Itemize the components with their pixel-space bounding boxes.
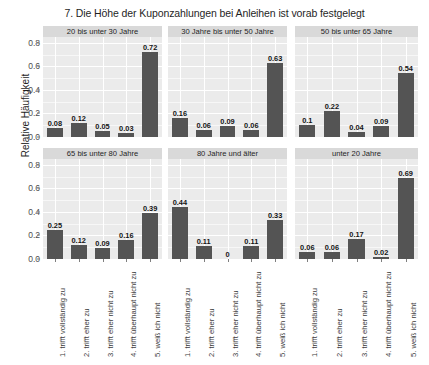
facet-strip-label: 20 bis unter 30 Jahre (43, 26, 162, 37)
x-tick-mark (180, 259, 181, 262)
x-tick-mark (307, 259, 308, 262)
x-tick-label: 2. trifft eher zu (335, 309, 344, 357)
bar (348, 132, 364, 137)
gridline-vertical (228, 159, 229, 259)
bar (324, 111, 340, 137)
bar (243, 246, 259, 259)
x-tick-label: 2. trifft eher zu (82, 309, 91, 357)
bar-value-label: 0.63 (268, 54, 282, 63)
bar (373, 126, 389, 137)
bar (267, 220, 283, 259)
bar-value-label: 0.17 (349, 230, 363, 239)
y-tick-mark (37, 89, 40, 90)
y-tick-mark (37, 42, 40, 43)
bar-value-label: 0.06 (196, 121, 210, 130)
bar (398, 178, 414, 259)
bar (47, 230, 63, 259)
facet-strip-label: 30 Jahre bis unter 50 Jahre (168, 26, 287, 37)
bar (348, 239, 364, 259)
x-tick-label: 3. trifft eher nicht zu (360, 290, 369, 357)
bar-value-label: 0.12 (71, 114, 85, 123)
facet-strip-label: 65 bis unter 80 Jahre (43, 148, 162, 159)
x-tick-mark (251, 259, 252, 262)
y-tick-mark (37, 211, 40, 212)
gridline-vertical (357, 37, 358, 137)
x-tick-mark (55, 259, 56, 262)
bar (243, 130, 259, 137)
bar-value-label: 0.54 (398, 64, 412, 73)
bar (47, 128, 63, 137)
bar-value-label: 0.04 (349, 123, 363, 132)
facet-panel: unter 20 Jahre0.060.060.170.020.69 (295, 148, 418, 259)
x-tick-mark (228, 259, 229, 262)
x-tick-label: 4. trifft überhaupt nicht zu (129, 271, 138, 357)
bar (398, 73, 414, 137)
bar-value-label: 0.12 (71, 236, 85, 245)
x-tick-label: 2. trifft eher zu (207, 309, 216, 357)
facet-panel: 80 Jahre und älter0.440.1100.110.33 (168, 148, 287, 259)
plot-area: 0.10.220.040.090.54 (295, 37, 418, 137)
x-tick-mark (332, 259, 333, 262)
bar-value-label: 0.06 (300, 243, 314, 252)
x-tick-mark (357, 259, 358, 262)
gridline-vertical (381, 159, 382, 259)
gridline-vertical (126, 37, 127, 137)
x-tick-label: 3. trifft eher nicht zu (231, 290, 240, 357)
y-axis: 0.00.20.40.60.80.00.20.40.60.8 (0, 0, 40, 365)
facet-panel: 50 bis unter 65 Jahre0.10.220.040.090.54 (295, 26, 418, 137)
y-tick-mark (37, 188, 40, 189)
plot-area: 0.250.120.090.160.39 (43, 159, 162, 259)
x-tick-mark (126, 259, 127, 262)
bar (142, 52, 158, 137)
bar (267, 63, 283, 137)
x-tick-mark (150, 259, 151, 262)
facet-strip-label: 50 bis unter 65 Jahre (295, 26, 418, 37)
bar-value-label: 0.22 (325, 102, 339, 111)
x-tick-label: 5. weiß ich nicht (409, 303, 418, 357)
bar-value-label: 0.44 (173, 198, 187, 207)
bar-value-label: 0.09 (95, 239, 109, 248)
x-tick-label: 1. trifft vollständig zu (58, 288, 67, 357)
bar (71, 123, 87, 137)
x-tick-label: 5. weiß ich nicht (278, 303, 287, 357)
bar-value-label: 0.05 (95, 122, 109, 131)
x-tick-label: 1. trifft vollständig zu (310, 288, 319, 357)
bar-value-label: 0.39 (143, 204, 157, 213)
bar (142, 213, 158, 259)
facet-strip-label: unter 20 Jahre (295, 148, 418, 159)
bar-value-label: 0.33 (268, 211, 282, 220)
facet-panel: 65 bis unter 80 Jahre0.250.120.090.160.3… (43, 148, 162, 259)
x-tick-mark (79, 259, 80, 262)
bar (71, 245, 87, 259)
x-tick-mark (381, 259, 382, 262)
bar (299, 125, 315, 137)
x-tick-mark (103, 259, 104, 262)
x-tick-label: 1. trifft vollständig zu (183, 288, 192, 357)
x-tick-label: 5. weiß ich nicht (153, 303, 162, 357)
bar-value-label: 0.06 (325, 243, 339, 252)
chart-title: 7. Die Höhe der Kuponzahlungen bei Anlei… (0, 7, 429, 19)
x-tick-mark (406, 259, 407, 262)
bar (172, 207, 188, 259)
facet-strip-label: 80 Jahre und älter (168, 148, 287, 159)
x-tick-mark (204, 259, 205, 262)
bar-value-label: 0.02 (374, 248, 388, 257)
bar-value-label: 0.69 (398, 169, 412, 178)
bar (299, 252, 315, 259)
x-tick-label: 4. trifft überhaupt nicht zu (254, 271, 263, 357)
bar-value-label: 0.03 (119, 124, 133, 133)
y-tick-mark (37, 235, 40, 236)
bar (172, 118, 188, 137)
bar-value-label: 0.09 (374, 117, 388, 126)
plot-area: 0.080.120.050.030.72 (43, 37, 162, 137)
facet-panel: 20 bis unter 30 Jahre0.080.120.050.030.7… (43, 26, 162, 137)
y-tick-mark (37, 137, 40, 138)
bar-value-label: 0.16 (119, 231, 133, 240)
y-tick-mark (37, 66, 40, 67)
chart-root: 7. Die Höhe der Kuponzahlungen bei Anlei… (0, 0, 429, 365)
bar-value-label: 0.11 (244, 237, 258, 246)
bar-value-label: 0.06 (244, 121, 258, 130)
plot-area: 0.160.060.090.060.63 (168, 37, 287, 137)
x-tick-mark (275, 259, 276, 262)
bar-value-label: 0.09 (220, 117, 234, 126)
